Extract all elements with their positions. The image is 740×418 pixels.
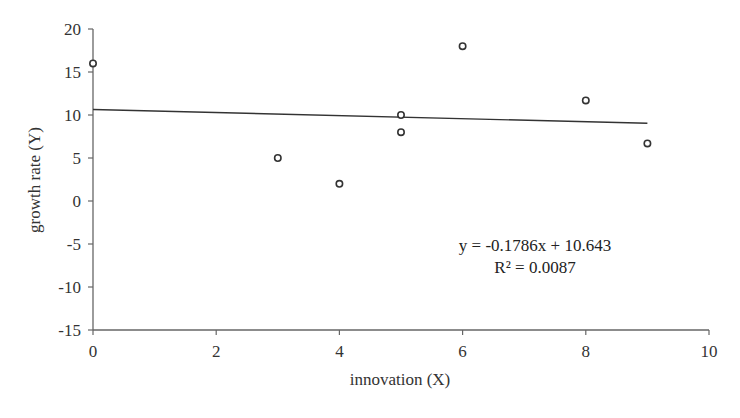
x-tick-label: 2 <box>212 342 221 361</box>
trendline-equation: y = -0.1786x + 10.643 <box>459 236 611 255</box>
y-axis-ticks: 20151050-5-10-15 <box>58 20 93 340</box>
data-point-marker <box>644 140 650 146</box>
x-tick-label: 4 <box>335 342 344 361</box>
data-point-marker <box>459 43 465 49</box>
y-tick-label: 5 <box>73 149 82 168</box>
data-point-marker <box>583 97 589 103</box>
x-tick-label: 6 <box>458 342 467 361</box>
x-axis-ticks: 0246810 <box>89 330 718 361</box>
data-point-marker <box>90 60 96 66</box>
y-axis-label: growth rate (Y) <box>25 127 44 233</box>
y-tick-label: -5 <box>67 235 81 254</box>
scatter-chart: 20151050-5-10-15 0246810 innovation (X) … <box>0 0 740 418</box>
data-point-marker <box>336 181 342 187</box>
linear-trendline <box>93 109 647 123</box>
data-points <box>90 43 651 187</box>
y-tick-label: 20 <box>64 20 81 39</box>
trendline <box>93 109 647 123</box>
y-tick-label: -10 <box>58 278 81 297</box>
x-tick-label: 8 <box>582 342 591 361</box>
y-tick-label: 0 <box>73 192 82 211</box>
y-tick-label: -15 <box>58 321 81 340</box>
y-tick-label: 15 <box>64 63 81 82</box>
data-point-marker <box>398 129 404 135</box>
data-point-marker <box>275 155 281 161</box>
x-tick-label: 0 <box>89 342 98 361</box>
data-point-marker <box>398 112 404 118</box>
x-axis-label: innovation (X) <box>350 370 451 389</box>
axes <box>93 29 709 330</box>
r-squared-label: R² = 0.0087 <box>494 258 576 277</box>
x-tick-label: 10 <box>701 342 718 361</box>
y-tick-label: 10 <box>64 106 81 125</box>
